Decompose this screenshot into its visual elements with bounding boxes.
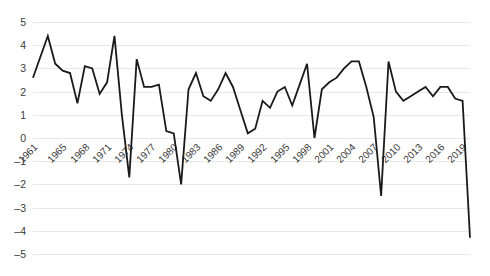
series-polyline — [33, 36, 470, 238]
y-tick-label-3: 3 — [20, 62, 26, 74]
y-tick-label--4: –4 — [14, 225, 26, 237]
y-tick-label-2: 2 — [20, 86, 26, 98]
y-tick-label--2: –2 — [14, 178, 26, 190]
y-tick-label-1: 1 — [20, 109, 26, 121]
line-chart: 543210–1–2–3–4–5 19611965196819711974197… — [0, 0, 490, 276]
y-tick-label-4: 4 — [20, 39, 26, 51]
y-tick-label--5: –5 — [14, 248, 26, 260]
data-series-line — [33, 22, 470, 254]
y-tick-label-5: 5 — [20, 16, 26, 28]
gridline-y--5 — [33, 254, 470, 255]
plot-area: 543210–1–2–3–4–5 19611965196819711974197… — [33, 22, 470, 254]
y-tick-label-0: 0 — [20, 132, 26, 144]
y-tick-label--3: –3 — [14, 202, 26, 214]
